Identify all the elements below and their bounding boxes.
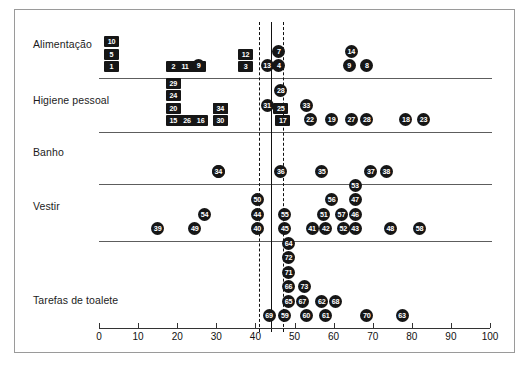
data-point-marker: 69 — [263, 309, 276, 322]
data-point-marker: 62 — [315, 295, 328, 308]
x-tick-70 — [373, 323, 374, 328]
data-point-marker: 41 — [306, 222, 319, 235]
data-point-marker: 43 — [349, 222, 362, 235]
data-point-marker: 20 — [166, 103, 181, 114]
data-point-marker: 7 — [272, 45, 285, 58]
x-tick-60 — [334, 323, 335, 328]
data-point-marker: 19 — [325, 113, 338, 126]
category-label-1: Alimentação — [33, 38, 92, 50]
data-point-marker: 36 — [274, 165, 287, 178]
data-point-marker: 9 — [343, 59, 356, 72]
data-point-marker: 29 — [166, 78, 181, 89]
data-point-marker: 14 — [345, 45, 358, 58]
data-point-marker: 27 — [345, 113, 358, 126]
data-point-marker: 72 — [282, 251, 295, 264]
data-point-marker: 42 — [319, 222, 332, 235]
category-separator-1 — [99, 78, 492, 79]
x-axis-line — [99, 328, 490, 329]
x-tick-label-0: 0 — [84, 331, 114, 342]
data-point-marker: 3 — [238, 61, 253, 72]
data-point-marker: 65 — [282, 295, 295, 308]
x-tick-50 — [295, 323, 296, 328]
x-tick-40 — [255, 323, 256, 328]
data-point-marker: 71 — [282, 266, 295, 279]
data-point-marker: 30 — [213, 115, 228, 126]
data-point-marker: 18 — [399, 113, 412, 126]
data-point-marker: 10 — [104, 36, 119, 47]
category-separator-3 — [99, 184, 492, 185]
data-point-marker: 24 — [166, 90, 181, 101]
data-point-marker: 67 — [296, 295, 309, 308]
data-point-marker: 48 — [384, 222, 397, 235]
x-tick-10 — [138, 323, 139, 328]
data-point-marker: 28 — [274, 84, 287, 97]
x-tick-20 — [177, 323, 178, 328]
data-point-marker: 1 — [104, 61, 119, 72]
dot-plot: 0102030405060708090100AlimentaçãoHigiene… — [0, 0, 530, 374]
data-point-marker: 58 — [413, 222, 426, 235]
data-point-marker: 66 — [282, 280, 295, 293]
data-point-marker: 60 — [300, 309, 313, 322]
category-label-5: Tarefas de toalete — [33, 294, 118, 306]
x-tick-100 — [490, 323, 491, 328]
x-tick-label-100: 100 — [475, 331, 505, 342]
x-tick-label-10: 10 — [123, 331, 153, 342]
category-label-4: Vestir — [33, 200, 60, 212]
data-point-marker: 51 — [317, 208, 330, 221]
data-point-marker: 35 — [315, 165, 328, 178]
x-tick-30 — [216, 323, 217, 328]
data-point-marker: 63 — [396, 309, 409, 322]
data-point-marker: 52 — [337, 222, 350, 235]
data-point-marker: 47 — [349, 193, 362, 206]
data-point-marker: 59 — [278, 309, 291, 322]
data-point-marker: 40 — [251, 222, 264, 235]
data-point-marker: 31 — [261, 99, 274, 112]
data-point-marker: 5 — [104, 49, 119, 60]
category-separator-2 — [99, 132, 492, 133]
x-tick-label-60: 60 — [319, 331, 349, 342]
x-tick-label-20: 20 — [162, 331, 192, 342]
x-tick-label-70: 70 — [358, 331, 388, 342]
data-point-marker: 22 — [304, 113, 317, 126]
x-tick-label-80: 80 — [397, 331, 427, 342]
x-tick-label-90: 90 — [436, 331, 466, 342]
category-label-2: Higiene pessoal — [33, 94, 109, 106]
data-point-marker: 53 — [349, 179, 362, 192]
data-point-marker: 64 — [282, 237, 295, 250]
data-point-marker: 54 — [198, 208, 211, 221]
data-point-marker: 23 — [417, 113, 430, 126]
data-point-marker: 34 — [213, 103, 228, 114]
x-tick-label-30: 30 — [201, 331, 231, 342]
data-point-marker: 46 — [349, 208, 362, 221]
data-point-marker: 61 — [319, 309, 332, 322]
data-point-marker: 12 — [238, 49, 253, 60]
data-point-marker: 49 — [188, 222, 201, 235]
data-point-marker: 37 — [364, 165, 377, 178]
x-tick-label-50: 50 — [280, 331, 310, 342]
data-point-marker: 34 — [212, 165, 225, 178]
data-point-marker: 73 — [298, 280, 311, 293]
data-point-marker: 68 — [329, 295, 342, 308]
data-point-marker: 16 — [193, 115, 208, 126]
data-point-marker: 55 — [278, 208, 291, 221]
data-point-marker: 50 — [251, 193, 264, 206]
data-point-marker: 33 — [300, 99, 313, 112]
category-separator-4 — [99, 241, 492, 242]
data-point-marker: 38 — [380, 165, 393, 178]
data-point-marker: 25 — [273, 103, 288, 114]
data-point-marker: 70 — [360, 309, 373, 322]
data-point-marker: 28 — [360, 113, 373, 126]
category-label-3: Banho — [33, 146, 64, 158]
x-tick-90 — [451, 323, 452, 328]
data-point-marker: 57 — [335, 208, 348, 221]
x-tick-80 — [412, 323, 413, 328]
data-point-marker: 39 — [151, 222, 164, 235]
x-tick-label-40: 40 — [240, 331, 270, 342]
data-point-marker: 56 — [325, 193, 338, 206]
data-point-marker: 45 — [278, 222, 291, 235]
data-point-marker: 17 — [275, 115, 290, 126]
x-tick-0 — [99, 323, 100, 328]
data-point-marker: 8 — [360, 59, 373, 72]
data-point-marker: 44 — [251, 208, 264, 221]
reference-line-dashed-0 — [259, 22, 260, 332]
